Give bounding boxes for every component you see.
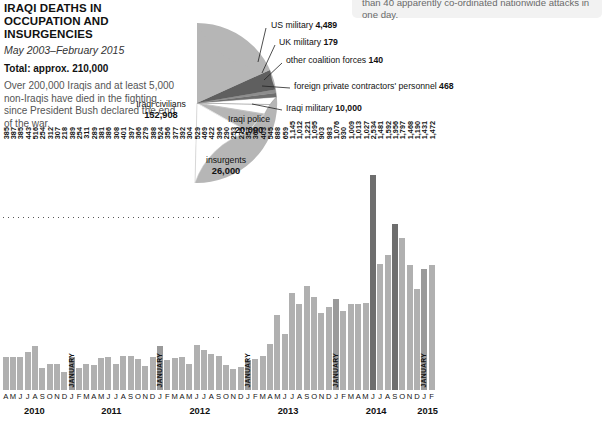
month-tick-label: D xyxy=(413,392,420,406)
month-tick-label: N xyxy=(53,392,60,406)
bar-series: 385387385443516254312307218389JANUARY254… xyxy=(2,140,435,390)
month-tick-label: J xyxy=(68,392,75,406)
bar-column: 545 xyxy=(266,140,273,390)
month-tick-label: D xyxy=(237,392,244,406)
bar-column: 254 xyxy=(39,140,46,390)
month-tick-label: M xyxy=(9,392,16,406)
pie-label-iraqi-military: Iraqi military 10,000 xyxy=(286,103,362,114)
month-tick-label: J xyxy=(421,392,428,406)
bar-column: 1,468 xyxy=(406,140,413,390)
bar: 377 xyxy=(172,358,178,390)
bar-column: 253 xyxy=(230,140,237,390)
bar: 275 xyxy=(238,367,244,390)
month-tick-label: A xyxy=(266,392,273,406)
bar-column: 1,481 xyxy=(377,140,384,390)
bar: 360 xyxy=(252,359,258,390)
january-marker-label: JANUARY xyxy=(156,353,163,387)
month-tick-label: F xyxy=(340,392,347,406)
bar: 659 xyxy=(282,334,288,390)
pie-label-us-military: US military 4,489 xyxy=(271,20,337,31)
bar-column: 356 xyxy=(164,140,171,390)
month-tick-label: J xyxy=(288,392,295,406)
bar-column: 385 xyxy=(2,140,9,390)
month-tick-label: A xyxy=(208,392,215,406)
bar-column: 366 xyxy=(134,140,141,390)
bar-column: 888 xyxy=(274,140,281,390)
bar-column: 443 xyxy=(24,140,31,390)
bar: 1,095 xyxy=(311,297,317,390)
month-tick-label: M xyxy=(347,392,354,406)
month-tick-label: N xyxy=(318,392,325,406)
bar: 312 xyxy=(47,364,53,390)
bar: 392 xyxy=(179,357,185,390)
bar: 289 xyxy=(91,365,97,390)
bar-column: 389JANUARY xyxy=(68,140,75,390)
pie-label-iraqi-military-value: 10,000 xyxy=(335,103,362,113)
month-tick-label: F xyxy=(75,392,82,406)
bar: 903 xyxy=(318,313,324,390)
bar-column: 1,592 xyxy=(384,140,391,390)
bar-column: 386 xyxy=(105,140,112,390)
pie-label-iraqi-civilians-name: Iraqi civilians xyxy=(136,99,186,109)
bar-column: 1,472 xyxy=(428,140,435,390)
bar-column: 385 xyxy=(17,140,24,390)
month-tick-label: J xyxy=(369,392,376,406)
bar-column: 524JANUARY xyxy=(156,140,163,390)
pie-label-iraqi-civilians-value: 152,908 xyxy=(144,110,178,120)
bar: 389JANUARY xyxy=(69,357,75,390)
bar-column: 1,027 xyxy=(362,140,369,390)
month-tick-label: J xyxy=(281,392,288,406)
bar-column: 397 xyxy=(127,140,134,390)
bar-column: 218 xyxy=(61,140,68,390)
month-tick-label: M xyxy=(274,392,281,406)
bar: 386 xyxy=(105,357,111,390)
month-tick-label: N xyxy=(142,392,149,406)
month-tick-label: A xyxy=(31,392,38,406)
month-tick-label: S xyxy=(39,392,46,406)
bar-column: 469 xyxy=(200,140,207,390)
pie-label-iraqi-military-name: Iraqi military xyxy=(286,103,333,113)
bar-column: 254 xyxy=(75,140,82,390)
x-axis-year-labels: 201020112012201320142015 xyxy=(2,406,604,420)
bar: 1,468 xyxy=(407,265,413,390)
bar-column: 381 xyxy=(97,140,104,390)
january-marker-label: JANUARY xyxy=(420,353,427,387)
year-label: 2010 xyxy=(24,406,45,416)
january-marker-label: JANUARY xyxy=(244,353,251,387)
month-tick-label: A xyxy=(90,392,97,406)
bar-column: 357JANUARY xyxy=(244,140,251,390)
bar: 385 xyxy=(17,357,23,390)
month-tick-label: M xyxy=(83,392,90,406)
pie-label-contractors: foreign private contractors' personnel 4… xyxy=(294,81,454,92)
bar: 1,076JANUARY xyxy=(333,299,339,390)
pie-label-other-coalition-name: other coalition forces xyxy=(286,55,366,65)
bar-column: 1,956 xyxy=(391,140,398,390)
infographic-root: IRAQI DEATHS IN OCCUPATION AND INSURGENC… xyxy=(0,0,606,421)
pie-label-us-military-name: US military xyxy=(271,20,313,30)
bar-column: 2,534 xyxy=(369,140,376,390)
bar-column: 387 xyxy=(9,140,16,390)
bar: 524JANUARY xyxy=(157,346,163,390)
month-tick-label: N xyxy=(230,392,237,406)
month-tick-label: F xyxy=(252,392,259,406)
month-tick-label: A xyxy=(178,392,185,406)
pie-label-uk-military: UK military 179 xyxy=(279,37,338,48)
bar: 356 xyxy=(164,360,170,390)
bar: 366 xyxy=(135,359,141,390)
bar: 290 xyxy=(223,365,229,390)
bar: 308 xyxy=(113,364,119,390)
bar: 397 xyxy=(128,356,134,390)
bar-column: 1,797 xyxy=(399,140,406,390)
year-label: 2011 xyxy=(101,406,121,416)
bar-column: 360 xyxy=(252,140,259,390)
pie-label-iraqi-police-name: Iraqi police xyxy=(228,114,270,124)
bar: 311 xyxy=(83,364,89,390)
bar-column: 304 xyxy=(186,140,193,390)
bar-column: 1,221 xyxy=(303,140,310,390)
month-tick-label: M xyxy=(186,392,193,406)
bar: 357JANUARY xyxy=(245,360,251,390)
bar-column: 930 xyxy=(340,140,347,390)
bar-column: 403 xyxy=(259,140,266,390)
bar: 1,009 xyxy=(348,304,354,390)
month-tick-label: O xyxy=(134,392,141,406)
